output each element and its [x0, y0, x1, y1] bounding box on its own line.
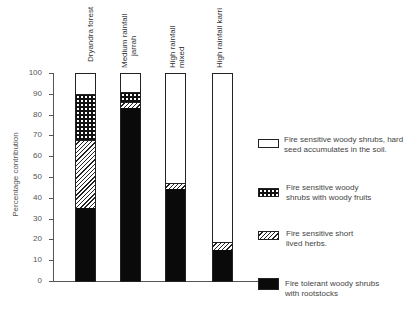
- y-tick-label: 50: [22, 172, 42, 181]
- bar-segment-diagonal-hatch: [76, 140, 95, 209]
- legend-swatch-crosshatch: [258, 188, 279, 197]
- y-tick: [49, 177, 53, 178]
- y-tick-label: 90: [22, 89, 42, 98]
- y-axis: [53, 73, 54, 282]
- bar-dryandra-forest: [75, 73, 96, 282]
- y-tick-label: 10: [22, 255, 42, 264]
- bar-segment-solid-black: [76, 208, 95, 281]
- bar-segment-white: [213, 73, 232, 241]
- y-tick: [49, 156, 53, 157]
- legend-swatch-black: [258, 278, 279, 290]
- y-tick-label: 80: [22, 110, 42, 119]
- legend-swatch-hatch: [258, 231, 279, 240]
- y-tick: [49, 135, 53, 136]
- bar-segment-white: [76, 73, 95, 94]
- y-axis-label: Percentage contribution: [11, 120, 20, 230]
- bar-segment-diagonal-hatch: [213, 242, 232, 250]
- legend-text-line: Fire sensitive woody: [286, 183, 415, 193]
- y-tick-label: 20: [22, 234, 42, 243]
- y-tick-label: 40: [22, 193, 42, 202]
- legend-text-line: with rootstocks: [285, 289, 415, 299]
- bar-segment-white: [121, 73, 140, 92]
- bar-segment-white: [166, 73, 185, 183]
- category-label-high-karri: High rainfall karri: [215, 8, 224, 68]
- bar-segment-solid-black: [121, 108, 140, 281]
- bar-segment-solid-black: [213, 250, 232, 281]
- legend-text-line: Fire sensitive short: [286, 229, 415, 239]
- legend-item-short-lived-herbs: Fire sensitive short lived herbs.: [286, 229, 415, 249]
- y-tick: [49, 115, 53, 116]
- y-tick-label: 70: [22, 130, 42, 139]
- legend-text-line: Fire sensitive woody shrubs, hard: [284, 135, 415, 145]
- y-tick: [49, 73, 53, 74]
- bar-segment-cross-hatch: [76, 94, 95, 140]
- bar-segment-cross-hatch: [121, 92, 140, 102]
- legend-item-rootstocks: Fire tolerant woody shrubs with rootstoc…: [285, 279, 415, 299]
- category-label-medium-jarrah: Medium rainfall jarrah: [120, 14, 138, 68]
- category-label-dryandra: Dryandra forest: [86, 7, 95, 62]
- legend-swatch-white: [258, 139, 279, 148]
- legend-text-line: seed accumulates in the soil.: [284, 145, 415, 155]
- bar-segment-diagonal-hatch: [166, 183, 185, 189]
- bar-segment-diagonal-hatch: [121, 102, 140, 108]
- bar-segment-solid-black: [166, 189, 185, 281]
- y-tick: [49, 198, 53, 199]
- bar-high-rainfall-karri: [212, 73, 233, 282]
- category-label-line: mixed: [177, 26, 186, 68]
- y-tick: [49, 260, 53, 261]
- category-label-line: High rainfall karri: [215, 8, 224, 68]
- legend-text-line: lived herbs.: [286, 239, 415, 249]
- legend-text-line: Fire tolerant woody shrubs: [285, 279, 415, 289]
- y-tick: [49, 94, 53, 95]
- y-tick-label: 60: [22, 151, 42, 160]
- y-tick-label: 30: [22, 214, 42, 223]
- category-label-line: jarrah: [129, 14, 138, 68]
- y-tick-label: 100: [22, 68, 42, 77]
- y-tick: [49, 281, 53, 282]
- bar-high-rainfall-mixed: [165, 73, 186, 282]
- y-tick-label: 0: [22, 276, 42, 285]
- y-tick: [49, 239, 53, 240]
- legend-text-line: shrubs with woody fruits: [286, 193, 415, 203]
- bar-medium-rainfall-jarrah: [120, 73, 141, 282]
- category-label-line: High rainfall: [168, 26, 177, 68]
- legend-item-hard-seed: Fire sensitive woody shrubs, hard seed a…: [284, 135, 415, 155]
- category-label-line: Dryandra forest: [86, 7, 95, 62]
- y-tick: [49, 219, 53, 220]
- category-label-high-mixed: High rainfall mixed: [168, 26, 186, 68]
- category-label-line: Medium rainfall: [120, 14, 129, 68]
- legend-item-woody-fruits: Fire sensitive woody shrubs with woody f…: [286, 183, 415, 203]
